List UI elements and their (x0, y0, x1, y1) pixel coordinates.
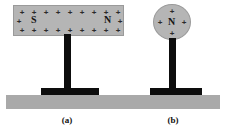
ground-surface (6, 95, 220, 109)
charge-plus: + (16, 18, 22, 24)
charge-plus: + (55, 9, 61, 15)
charge-plus: + (67, 9, 73, 15)
charge-plus: + (43, 27, 49, 33)
charge-plus: + (43, 9, 49, 15)
charge-plus: + (67, 27, 73, 33)
charge-plus: + (181, 19, 187, 25)
charge-plus: + (157, 19, 163, 25)
charge-plus: + (91, 9, 97, 15)
charge-plus: + (103, 27, 109, 33)
charge-plus: + (115, 9, 121, 15)
physics-figure: + + + + + + + + + + + + + + + + + + + + … (0, 0, 226, 132)
panel-caption-b: (b) (158, 116, 188, 125)
stand-post-b (169, 38, 176, 88)
pole-label-north-disc: N (168, 17, 175, 27)
charge-plus: + (169, 8, 175, 14)
charge-plus: + (19, 27, 25, 33)
charge-plus: + (117, 18, 123, 24)
charge-plus: + (91, 27, 97, 33)
charge-plus: + (79, 9, 85, 15)
stand-post-a (64, 34, 71, 88)
charge-plus: + (79, 27, 85, 33)
panel-caption-a: (a) (52, 116, 82, 125)
pole-label-south: S (31, 15, 37, 25)
charge-plus: + (169, 30, 175, 36)
charge-plus: + (19, 9, 25, 15)
charge-plus: + (31, 27, 37, 33)
pole-label-north: N (104, 15, 111, 25)
charge-plus: + (115, 27, 121, 33)
charge-plus: + (55, 27, 61, 33)
